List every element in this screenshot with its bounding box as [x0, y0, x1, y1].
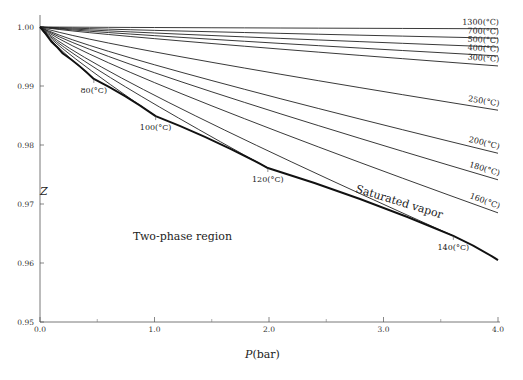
x-tick-label: 2.0	[263, 325, 275, 334]
x-tick-label: 0.0	[34, 325, 46, 334]
isotherm-line	[40, 27, 498, 29]
isotherm-line	[40, 27, 268, 168]
isotherm-label: 500(°C)	[467, 35, 499, 45]
isotherm-label: 120(°C)	[252, 175, 284, 184]
x-tick-label: 4.0	[492, 325, 504, 334]
isotherm-line	[40, 27, 498, 213]
isotherm-label: 80(°C)	[81, 86, 108, 95]
saturated-vapor-line	[40, 27, 498, 260]
isotherm-label: 200(°C)	[468, 135, 501, 151]
isotherm-line	[40, 27, 498, 110]
y-tick-label: 0.98	[17, 141, 34, 150]
isotherm-line	[40, 27, 498, 153]
y-tick-label: 1.00	[17, 23, 34, 32]
isotherm-label: 140(°C)	[438, 243, 470, 252]
x-axis-title-unit: (bar)	[252, 348, 279, 361]
isotherm-label: 180(°C)	[468, 160, 501, 178]
isotherm-label: 1300(°C)	[462, 18, 499, 27]
y-axis-title: Z	[39, 185, 48, 198]
two-phase-region-label: Two-phase region	[133, 230, 232, 243]
x-axis-title: P(bar)	[244, 348, 280, 361]
y-tick-label: 0.95	[17, 318, 34, 327]
isotherm-label: 300(°C)	[467, 53, 499, 64]
x-tick-label: 1.0	[149, 325, 161, 334]
saturated-vapor-curve	[40, 27, 498, 260]
isotherm-label: 700(°C)	[467, 26, 499, 36]
isotherm-line	[40, 27, 498, 180]
y-tick-label: 0.97	[17, 200, 34, 209]
y-tick-label: 0.96	[17, 259, 34, 268]
compressibility-chart: 0.01.02.03.04.01.000.990.980.970.960.95 …	[0, 0, 523, 380]
isotherm-label: 100(°C)	[140, 123, 172, 132]
y-tick-label: 0.99	[17, 82, 34, 91]
x-tick-label: 3.0	[378, 325, 390, 334]
